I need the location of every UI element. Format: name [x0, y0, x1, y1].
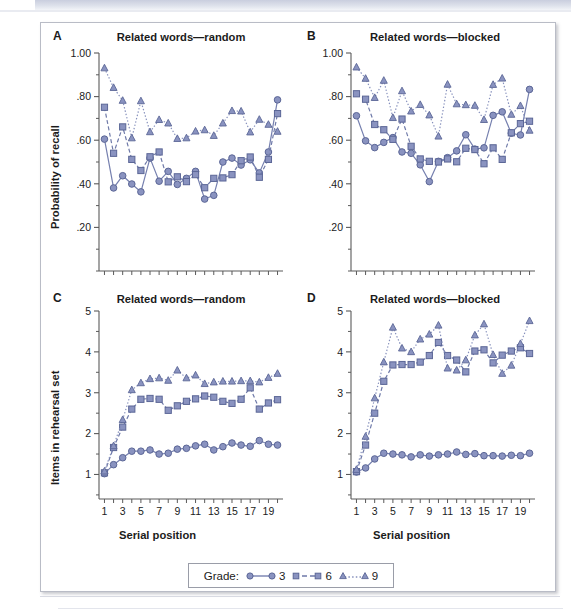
legend-item-grade-9: 9	[339, 570, 378, 582]
svg-text:1: 1	[354, 505, 360, 517]
panel-c-letter: C	[53, 291, 62, 305]
panel-d-plot: 12345135791113151719	[295, 289, 555, 549]
svg-text:2: 2	[85, 427, 91, 439]
svg-text:9: 9	[426, 505, 432, 517]
svg-text:11: 11	[190, 505, 201, 517]
legend-swatch-square	[292, 570, 322, 582]
legend-title: Grade:	[204, 570, 239, 582]
svg-text:2: 2	[337, 427, 343, 439]
svg-text:15: 15	[226, 505, 238, 517]
svg-text:17: 17	[496, 505, 508, 517]
panel-b-letter: B	[307, 29, 316, 43]
legend-label-grade-9: 9	[372, 570, 378, 582]
panel-c-title: Related words—random	[81, 293, 281, 305]
panel-c-ylabel: Items in rehearsal set	[49, 371, 61, 485]
legend-label-grade-6: 6	[325, 570, 331, 582]
legend-swatch-triangle	[339, 570, 369, 582]
svg-text:4: 4	[85, 346, 91, 358]
legend-item-grade-3: 3	[246, 570, 285, 582]
page-bottom-rule-1	[40, 596, 560, 597]
svg-text:.80: .80	[76, 90, 91, 102]
svg-text:19: 19	[263, 505, 275, 517]
svg-text:5: 5	[337, 305, 343, 317]
page-top-rule	[0, 10, 571, 12]
panel-a-title: Related words—random	[81, 31, 281, 43]
svg-text:1.00: 1.00	[323, 47, 344, 59]
svg-text:19: 19	[515, 505, 527, 517]
panel-b: B Related words—blocked .20.40.60.801.00	[295, 23, 555, 293]
panel-a: A Related words—random Probability of re…	[41, 23, 299, 293]
panel-c-plot: 12345135791113151719	[41, 289, 299, 549]
svg-text:.40: .40	[76, 178, 91, 190]
svg-text:11: 11	[442, 505, 453, 517]
svg-text:5: 5	[85, 305, 91, 317]
legend-swatch-circle	[246, 570, 276, 582]
svg-text:1: 1	[337, 468, 343, 480]
panel-b-plot: .20.40.60.801.00	[295, 23, 555, 293]
svg-text:7: 7	[156, 505, 162, 517]
panel-a-ylabel: Probability of recall	[49, 125, 61, 229]
panel-c: C Related words—random Items in rehearsa…	[41, 289, 299, 549]
panel-a-plot: .20.40.60.801.00	[41, 23, 299, 293]
svg-text:.40: .40	[328, 178, 343, 190]
svg-text:1: 1	[102, 505, 108, 517]
panel-c-xlabel: Serial position	[119, 529, 196, 541]
panel-a-letter: A	[53, 29, 62, 43]
svg-text:4: 4	[337, 346, 343, 358]
svg-text:.20: .20	[328, 221, 343, 233]
svg-text:1.00: 1.00	[71, 47, 92, 59]
figure-container: A Related words—random Probability of re…	[40, 22, 556, 592]
svg-text:5: 5	[138, 505, 144, 517]
svg-text:3: 3	[120, 505, 126, 517]
svg-text:.20: .20	[76, 221, 91, 233]
panel-b-title: Related words—blocked	[335, 31, 535, 43]
svg-text:.60: .60	[76, 134, 91, 146]
svg-text:3: 3	[85, 387, 91, 399]
page-bottom-rule-2	[58, 608, 563, 609]
svg-text:1: 1	[85, 468, 91, 480]
svg-text:.60: .60	[328, 134, 343, 146]
page-top-band	[35, 0, 571, 10]
svg-text:3: 3	[337, 387, 343, 399]
panel-d: D Related words—blocked Serial position …	[295, 289, 555, 549]
legend-label-grade-3: 3	[279, 570, 285, 582]
panel-d-xlabel: Serial position	[373, 529, 450, 541]
svg-text:7: 7	[408, 505, 414, 517]
svg-text:15: 15	[478, 505, 490, 517]
svg-text:13: 13	[208, 505, 220, 517]
svg-text:13: 13	[460, 505, 472, 517]
figure-page: A Related words—random Probability of re…	[0, 0, 571, 613]
legend: Grade: 3 6 9	[188, 563, 394, 588]
panel-d-letter: D	[307, 291, 316, 305]
legend-item-grade-6: 6	[292, 570, 331, 582]
svg-text:17: 17	[244, 505, 256, 517]
svg-text:5: 5	[390, 505, 396, 517]
panel-d-title: Related words—blocked	[335, 293, 535, 305]
svg-text:9: 9	[174, 505, 180, 517]
svg-text:.80: .80	[328, 90, 343, 102]
svg-text:3: 3	[372, 505, 378, 517]
